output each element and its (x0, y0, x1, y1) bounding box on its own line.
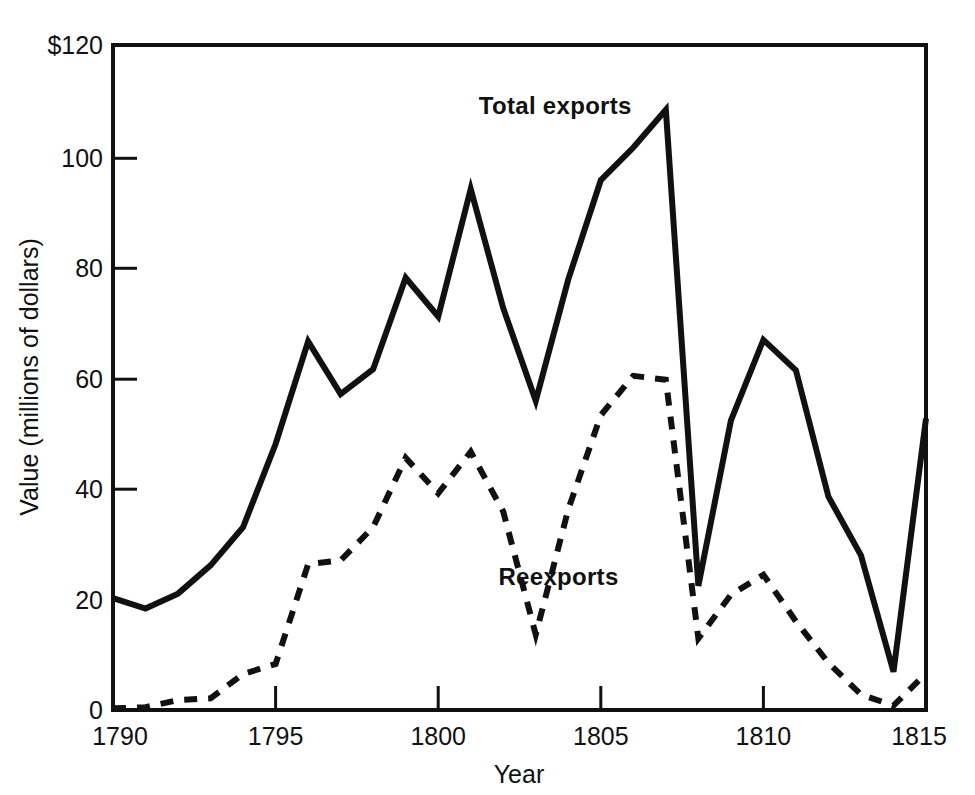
series-annotation-reexports: Reexports (498, 563, 618, 590)
series-line-reexports (113, 376, 926, 709)
y-axis-title: Value (millions of dollars) (15, 238, 43, 515)
exports-line-chart: $120 100 80 60 40 20 0 1790 1795 1800 18… (0, 0, 975, 795)
y-tick-label-40: 40 (75, 475, 103, 503)
x-tick-label-1800: 1800 (410, 722, 466, 750)
chart-figure: $120 100 80 60 40 20 0 1790 1795 1800 18… (0, 0, 975, 795)
y-tick-label-100: 100 (61, 144, 103, 172)
y-tick-label-0: 0 (89, 696, 103, 724)
x-tick-label-1815: 1815 (891, 722, 947, 750)
plot-frame (113, 45, 926, 710)
y-tick-label-20: 20 (75, 586, 103, 614)
x-tick-label-1795: 1795 (248, 722, 304, 750)
series-annotation-total-exports: Total exports (479, 92, 632, 119)
x-axis-ticks (276, 686, 764, 710)
x-tick-label-1805: 1805 (573, 722, 629, 750)
y-axis-ticks (113, 158, 137, 489)
x-axis-title: Year (494, 760, 545, 788)
x-tick-label-1790: 1790 (92, 722, 148, 750)
y-tick-label-60: 60 (75, 365, 103, 393)
x-tick-label-1810: 1810 (736, 722, 792, 750)
y-tick-label-80: 80 (75, 254, 103, 282)
y-tick-label-120: $120 (47, 31, 103, 59)
